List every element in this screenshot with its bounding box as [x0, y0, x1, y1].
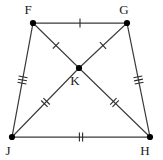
geometry-figure: FGJHK [0, 0, 163, 160]
vertex-dot-g [124, 20, 130, 26]
vertex-dot-h [147, 134, 153, 140]
segments-layer [12, 23, 150, 137]
vertex-label-h: H [140, 143, 149, 158]
tick-marks-layer [17, 19, 143, 142]
vertex-label-f: F [24, 2, 31, 17]
vertex-label-k: K [70, 73, 80, 88]
vertex-dot-k [76, 65, 82, 71]
vertex-dot-f [30, 20, 36, 26]
tick-group-fj [17, 76, 27, 84]
segment-kj [12, 68, 79, 137]
tick-group-gh [133, 76, 143, 84]
segment-kh [79, 68, 150, 137]
vertex-dot-j [9, 134, 15, 140]
vertex-label-g: G [119, 2, 128, 17]
geometry-canvas: FGJHK [0, 0, 163, 160]
vertex-label-j: J [5, 143, 10, 158]
